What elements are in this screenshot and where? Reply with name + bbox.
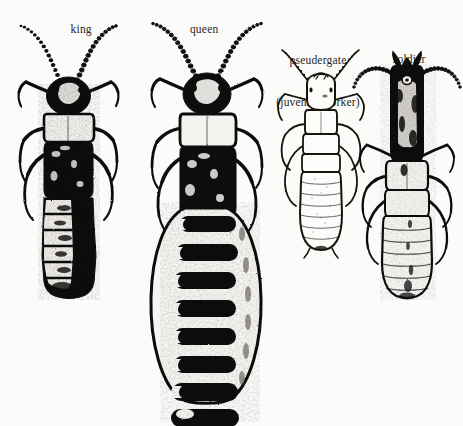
termite-caste-figure: king queen pseudergate (juvenile worker)…	[0, 0, 463, 426]
queen-pronotum	[180, 114, 236, 147]
queen-antenna-right	[216, 22, 263, 78]
king-antenna-right	[75, 25, 118, 82]
termite-queen-illustration	[140, 22, 282, 408]
termite-soldier-illustration	[352, 48, 462, 302]
king-antenna-left	[20, 25, 63, 82]
termite-king-illustration	[8, 24, 128, 296]
queen-antenna-left	[152, 22, 199, 78]
pseudergate-antenna-left	[282, 50, 309, 82]
